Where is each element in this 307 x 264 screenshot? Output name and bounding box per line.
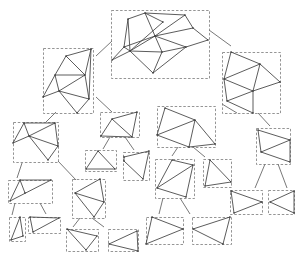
mesh-edge [258,130,261,152]
mesh-edge [146,217,152,244]
mesh-vertex [137,250,139,252]
mesh-vertex [259,63,261,65]
mesh-vertex [289,161,291,163]
mesh-vertex [58,90,60,92]
mesh-vertex [156,187,158,189]
mesh-edge [130,51,153,73]
mesh-edge [33,218,59,232]
mesh-vertex [84,74,86,76]
mesh-edge [193,217,230,229]
mesh-vertex [136,230,138,232]
mesh-vertex [29,216,31,218]
mesh-edge [24,123,29,136]
mesh-vertex [144,12,146,14]
mesh-edge [165,108,195,120]
mesh-edge [223,217,230,244]
mesh-edge [260,64,280,82]
mesh-edge [145,13,163,22]
mesh-edge [205,182,231,186]
mesh-node-l3b [123,150,150,180]
tree-connector [255,164,265,188]
mesh-edge [157,160,172,188]
tree-connector [125,137,134,150]
mesh-vertex [123,160,125,162]
mesh-edge [30,217,33,232]
mesh-vertex [97,150,99,152]
mesh-edge [86,236,97,250]
mesh-edge [157,135,189,147]
mesh-vertex [9,200,11,202]
mesh-vertex [85,168,87,170]
mesh-edge [227,101,253,113]
mesh-vertex [57,145,59,147]
mesh-edge [157,165,193,188]
mesh-vertex [229,216,231,218]
mesh-vertex [136,111,138,113]
mesh-edge [59,75,85,91]
mesh-edge [59,91,77,113]
mesh-edge [224,52,231,79]
tree-connector [58,161,76,180]
mesh-vertex [230,190,232,192]
mesh-node-l4f [192,216,231,245]
mesh-edge [186,40,208,47]
mesh-edge [128,13,145,19]
mesh-edge [261,140,290,152]
mesh-vertex [233,212,235,214]
mesh-edge [231,52,260,64]
mesh-vertex [123,156,125,158]
mesh-vertex [194,119,196,121]
mesh-vertex [108,243,110,245]
mesh-vertex [269,201,271,203]
mesh-edge [189,144,215,147]
mesh-node-l3e [156,159,195,198]
mesh-edge [67,229,86,250]
mesh-edge [55,123,58,146]
mesh-edge [270,202,294,213]
tree-connector [159,198,163,214]
mesh-vertex [23,122,25,124]
mesh-vertex [28,135,30,137]
mesh-vertex [293,190,295,192]
mesh-edge [13,123,24,143]
node-bounding-box [231,191,263,215]
mesh-edge [43,75,55,97]
mesh-vertex [156,134,158,136]
mesh-vertex [90,48,92,50]
mesh-node-l4b [29,216,61,233]
mesh-vertex [192,27,194,29]
mesh-edge [94,202,104,217]
tree-connector [180,198,190,214]
mesh-vertex [289,139,291,141]
tree-connector [96,41,112,56]
mesh-edge [85,75,89,99]
mesh-edge [124,161,143,179]
tree-connector [258,113,270,126]
mesh-edge [253,64,260,91]
mesh-edge [155,36,186,47]
mesh-vertex [100,135,102,137]
mesh-vertex [148,150,150,152]
mesh-tree-diagram [0,0,307,264]
node-bounding-box [193,218,232,245]
mesh-node-l3a [85,150,116,171]
mesh-vertex [10,239,12,241]
mesh-edge [157,108,165,135]
mesh-edge [145,13,185,15]
mesh-node-l2b [100,111,139,138]
mesh-edge [231,191,262,202]
mesh-edge [100,179,104,202]
mesh-edge [29,123,55,136]
mesh-edge [55,75,59,91]
mesh-vertex [223,78,225,80]
mesh-edge [205,160,210,186]
mesh-vertex [54,74,56,76]
mesh-vertex [24,192,26,194]
mesh-vertex [96,235,98,237]
mesh-node-l3g [230,190,263,214]
mesh-vertex [184,14,186,16]
mesh-edge [130,51,162,52]
mesh-edge [75,179,100,193]
mesh-vertex [93,216,95,218]
mesh-edge [128,19,130,51]
